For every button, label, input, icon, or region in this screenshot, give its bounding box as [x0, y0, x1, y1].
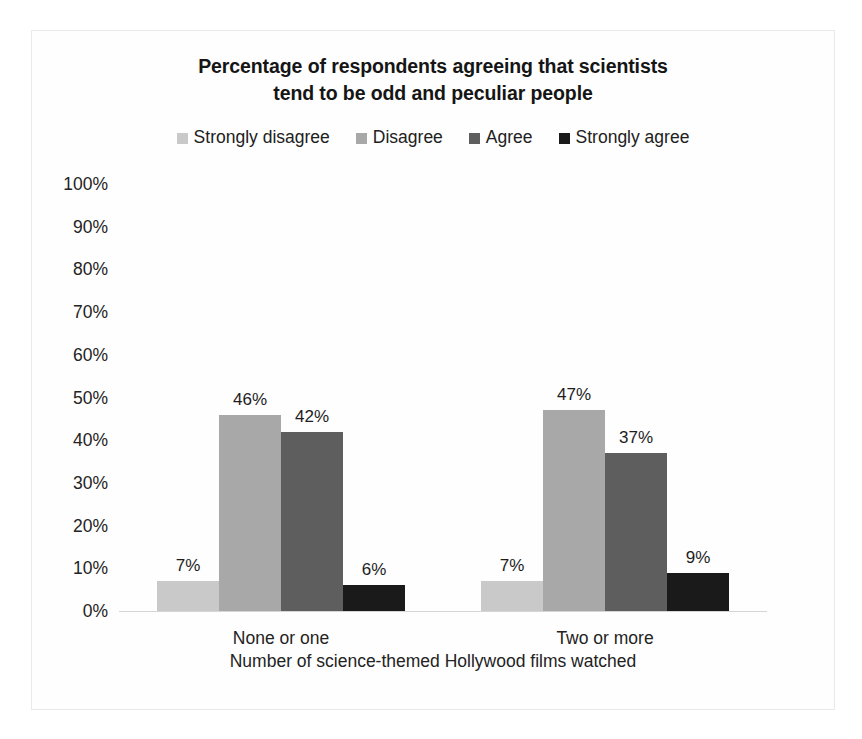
- bar[interactable]: [481, 581, 543, 611]
- y-axis-tick-label: 30%: [73, 472, 108, 493]
- chart-title-line-1: Percentage of respondents agreeing that …: [32, 53, 834, 80]
- legend-swatch-icon: [177, 133, 188, 144]
- bar[interactable]: [605, 453, 667, 611]
- legend-item-0[interactable]: Strongly disagree: [177, 127, 330, 148]
- y-axis-tick-label: 60%: [73, 344, 108, 365]
- bar-value-label: 37%: [619, 429, 653, 446]
- bar-slot: 7%: [481, 184, 543, 611]
- x-axis-title: Number of science-themed Hollywood films…: [32, 651, 834, 672]
- bar-slot: 42%: [281, 184, 343, 611]
- bar-slot: 7%: [157, 184, 219, 611]
- chart-frame: Percentage of respondents agreeing that …: [31, 30, 835, 710]
- bar-slot: 9%: [667, 184, 729, 611]
- bar[interactable]: [219, 415, 281, 611]
- bar-groups: 7%46%42%6%None or one7%47%37%9%Two or mo…: [119, 184, 767, 611]
- bar-value-label: 42%: [295, 408, 329, 425]
- x-axis-category-label: Two or more: [443, 628, 767, 649]
- bar-group: 7%46%42%6%None or one: [119, 184, 443, 611]
- legend-swatch-icon: [356, 133, 367, 144]
- legend-label: Disagree: [373, 127, 443, 148]
- bar-value-label: 47%: [557, 386, 591, 403]
- legend-label: Strongly agree: [576, 127, 690, 148]
- y-axis-tick-label: 50%: [73, 387, 108, 408]
- chart-legend: Strongly disagreeDisagreeAgreeStrongly a…: [32, 127, 834, 148]
- y-axis-tick-label: 40%: [73, 430, 108, 451]
- bar-value-label: 7%: [500, 557, 525, 574]
- legend-item-2[interactable]: Agree: [469, 127, 533, 148]
- y-axis-tick-label: 0%: [83, 601, 108, 622]
- legend-swatch-icon: [469, 133, 480, 144]
- y-axis-tick-label: 90%: [73, 216, 108, 237]
- bar-value-label: 9%: [686, 549, 711, 566]
- bar-slot: 37%: [605, 184, 667, 611]
- bar[interactable]: [667, 573, 729, 611]
- bar-set: 7%47%37%9%: [481, 184, 729, 611]
- legend-label: Strongly disagree: [194, 127, 330, 148]
- y-axis-tick-label: 20%: [73, 515, 108, 536]
- bar[interactable]: [281, 432, 343, 611]
- bar-value-label: 6%: [362, 561, 387, 578]
- bar-group: 7%47%37%9%Two or more: [443, 184, 767, 611]
- y-axis-tick-label: 70%: [73, 302, 108, 323]
- bar-slot: 47%: [543, 184, 605, 611]
- y-axis-tick-label: 100%: [63, 174, 108, 195]
- chart-title: Percentage of respondents agreeing that …: [32, 53, 834, 107]
- bar-slot: 46%: [219, 184, 281, 611]
- bar-value-label: 7%: [176, 557, 201, 574]
- bar-slot: 6%: [343, 184, 405, 611]
- y-axis-tick-label: 10%: [73, 558, 108, 579]
- x-axis-line: [119, 611, 767, 612]
- bar-set: 7%46%42%6%: [157, 184, 405, 611]
- chart-title-line-2: tend to be odd and peculiar people: [32, 80, 834, 107]
- plot-area: 100%90%80%70%60%50%40%30%20%10%0% 7%46%4…: [119, 184, 767, 611]
- bar[interactable]: [543, 410, 605, 611]
- bar[interactable]: [343, 585, 405, 611]
- legend-item-1[interactable]: Disagree: [356, 127, 443, 148]
- x-axis-category-label: None or one: [119, 628, 443, 649]
- legend-label: Agree: [486, 127, 533, 148]
- legend-item-3[interactable]: Strongly agree: [559, 127, 690, 148]
- bar-value-label: 46%: [233, 391, 267, 408]
- legend-swatch-icon: [559, 133, 570, 144]
- bar[interactable]: [157, 581, 219, 611]
- y-axis-tick-label: 80%: [73, 259, 108, 280]
